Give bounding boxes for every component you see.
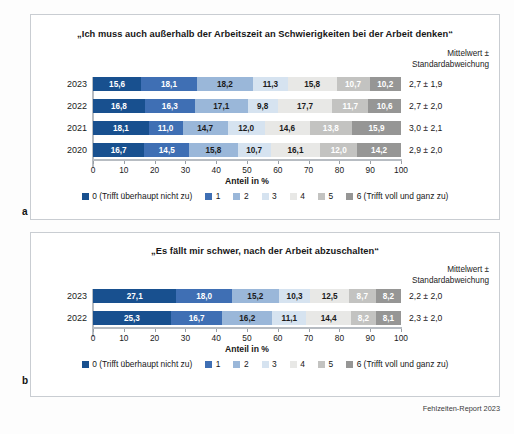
legend-item: 5 [318, 359, 333, 369]
bar-row-year-label: 2022 [53, 311, 87, 325]
x-axis-tick-label: 20 [150, 333, 159, 343]
legend-swatch-icon [262, 361, 269, 368]
x-axis-tick-label: 40 [212, 165, 221, 175]
bar-row-year-label: 2022 [53, 99, 87, 113]
legend-label: 2 [244, 191, 249, 201]
legend-label: 4 [300, 191, 305, 201]
bar-segment: 11,1 [272, 311, 306, 325]
bar-segment: 13,8 [310, 121, 352, 135]
bar-segment: 8,2 [376, 289, 401, 303]
x-axis-tick [93, 329, 94, 332]
bar-segment: 9,8 [248, 99, 278, 113]
x-axis-tick-label: 0 [91, 333, 96, 343]
bar-segment: 18,1 [93, 121, 149, 135]
bar-segment: 27,1 [93, 289, 176, 303]
legend-item: 6 (Trifft voll und ganz zu) [346, 359, 448, 369]
bar-segment: 16,2 [222, 311, 272, 325]
chart-b-mean-header: Mittelwert ± Standardabweichung [412, 265, 489, 286]
x-axis-tick [247, 329, 248, 332]
bar-segment: 15,6 [93, 77, 141, 91]
bar-stack: 16,714,515,810,716,112,014,2 [93, 143, 401, 157]
bar-row-mean-value: 2,7 ± 2,0 [409, 99, 469, 113]
legend-label: 0 (Trifft überhaupt nicht zu) [92, 359, 192, 369]
x-axis-tick-label: 60 [273, 165, 282, 175]
bar-segment: 14,2 [357, 143, 401, 157]
bar-segment: 25,3 [93, 311, 171, 325]
bar-row-year-label: 2020 [53, 143, 87, 157]
bar-segment: 14,5 [144, 143, 189, 157]
x-axis-tick [339, 161, 340, 164]
legend-swatch-icon [290, 361, 297, 368]
legend-swatch-icon [205, 193, 212, 200]
bar-segment: 16,1 [271, 143, 321, 157]
legend-swatch-icon [290, 193, 297, 200]
bar-segment: 18,2 [197, 77, 253, 91]
x-axis-tick [278, 161, 279, 164]
bar-stack: 25,316,716,211,114,48,28,1 [93, 311, 401, 325]
bar-segment: 11,0 [149, 121, 183, 135]
legend-label: 6 (Trifft voll und ganz zu) [357, 359, 449, 369]
bar-row: 202315,618,118,211,315,810,710,22,7 ± 1,… [93, 77, 401, 91]
legend-label: 6 (Trifft voll und ganz zu) [357, 191, 449, 201]
x-axis-tick [185, 329, 186, 332]
legend-item: 2 [233, 359, 248, 369]
bar-segment: 17,7 [278, 99, 333, 113]
bar-segment: 8,7 [349, 289, 376, 303]
bar-row: 202118,111,014,712,014,613,815,93,0 ± 2,… [93, 121, 401, 135]
bar-segment: 10,6 [368, 99, 401, 113]
chart-a-x-axis-label: Anteil in % [93, 176, 401, 186]
bar-segment: 15,8 [288, 77, 337, 91]
bar-row-mean-value: 2,9 ± 2,0 [409, 143, 469, 157]
bar-row-mean-value: 2,7 ± 1,9 [409, 77, 469, 91]
legend-swatch-icon [233, 193, 240, 200]
x-axis-tick [216, 329, 217, 332]
bar-row-mean-value: 3,0 ± 2,1 [409, 121, 469, 135]
legend-label: 5 [328, 359, 333, 369]
panel-letter-a: a [22, 206, 28, 217]
bar-row-year-label: 2023 [53, 289, 87, 303]
x-axis-tick-label: 70 [304, 333, 313, 343]
legend-label: 4 [300, 359, 305, 369]
legend-label: 5 [328, 191, 333, 201]
chart-a-title: „Ich muss auch außerhalb der Arbeitszeit… [31, 29, 499, 39]
legend-item: 4 [290, 359, 305, 369]
bar-segment: 10,3 [279, 289, 311, 303]
legend-swatch-icon [82, 361, 89, 368]
legend-item: 4 [290, 191, 305, 201]
bar-segment: 15,9 [352, 121, 401, 135]
x-axis-tick-label: 100 [394, 165, 408, 175]
bar-stack: 15,618,118,211,315,810,710,2 [93, 77, 401, 91]
x-axis-tick [401, 161, 402, 164]
chart-b-plot: 0102030405060708090100 Anteil in % 20232… [93, 289, 401, 337]
x-axis-tick-label: 20 [150, 165, 159, 175]
legend-label: 3 [272, 191, 277, 201]
chart-b-legend: 0 (Trifft überhaupt nicht zu)123456 (Tri… [31, 359, 499, 369]
legend-item: 6 (Trifft voll und ganz zu) [346, 191, 448, 201]
x-axis-tick [124, 329, 125, 332]
legend-swatch-icon [346, 193, 353, 200]
bar-stack: 16,816,317,19,817,711,710,6 [93, 99, 401, 113]
bar-segment: 18,1 [141, 77, 197, 91]
bar-segment: 12,5 [310, 289, 349, 303]
bar-row-mean-value: 2,3 ± 2,0 [409, 311, 469, 325]
legend-item: 5 [318, 191, 333, 201]
legend-swatch-icon [82, 193, 89, 200]
legend-item: 3 [262, 191, 277, 201]
bar-segment: 18,0 [176, 289, 231, 303]
legend-swatch-icon [318, 193, 325, 200]
x-axis-tick-label: 40 [212, 333, 221, 343]
x-axis-tick [247, 161, 248, 164]
chart-panel-b: „Es fällt mir schwer, nach der Arbeit ab… [30, 232, 500, 397]
x-axis-tick-label: 10 [119, 333, 128, 343]
bar-segment: 16,8 [93, 99, 145, 113]
bar-stack: 27,118,015,210,312,58,78,2 [93, 289, 401, 303]
x-axis-tick-label: 90 [366, 165, 375, 175]
x-axis-tick [339, 329, 340, 332]
bar-segment: 14,7 [183, 121, 228, 135]
legend-swatch-icon [233, 361, 240, 368]
legend-item: 1 [205, 359, 220, 369]
x-axis-tick-label: 30 [181, 333, 190, 343]
bar-segment: 10,7 [337, 77, 370, 91]
x-axis-tick-label: 90 [366, 333, 375, 343]
x-axis-tick-label: 30 [181, 165, 190, 175]
